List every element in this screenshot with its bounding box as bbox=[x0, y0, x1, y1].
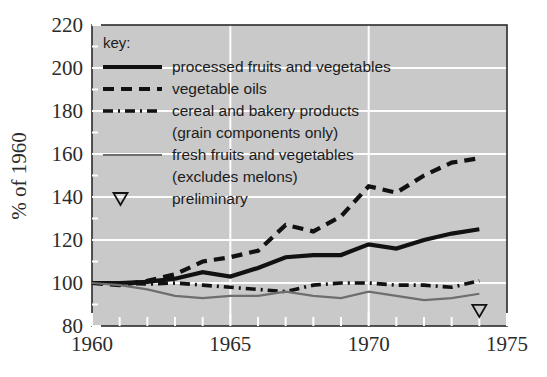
line-chart: 80100120140160180200220 1960196519701975… bbox=[0, 0, 547, 377]
legend-label-4: preliminary bbox=[172, 190, 248, 207]
x-tick-label-1975: 1975 bbox=[486, 332, 528, 356]
x-tick-label-1965: 1965 bbox=[209, 332, 251, 356]
legend-sublabel-3: (excludes melons) bbox=[172, 168, 298, 185]
legend-label-3: fresh fruits and vegetables bbox=[172, 146, 354, 163]
legend-sublabel-2: (grain components only) bbox=[172, 124, 338, 141]
legend-label-0: processed fruits and vegetables bbox=[172, 58, 391, 75]
chart-figure: 80100120140160180200220 1960196519701975… bbox=[0, 0, 547, 377]
y-tick-label-180: 180 bbox=[52, 99, 84, 123]
y-tick-label-140: 140 bbox=[52, 185, 84, 209]
x-tick-label-1960: 1960 bbox=[71, 332, 113, 356]
x-tick-label-1970: 1970 bbox=[348, 332, 390, 356]
y-tick-label-220: 220 bbox=[52, 13, 84, 37]
y-axis-tick-labels: 80100120140160180200220 bbox=[52, 13, 84, 338]
y-tick-label-100: 100 bbox=[52, 271, 84, 295]
y-tick-label-200: 200 bbox=[52, 56, 84, 80]
legend-title: key: bbox=[103, 34, 131, 51]
x-axis-tick-labels: 1960196519701975 bbox=[71, 332, 528, 356]
y-tick-label-120: 120 bbox=[52, 228, 84, 252]
y-tick-label-160: 160 bbox=[52, 142, 84, 166]
legend-label-1: vegetable oils bbox=[172, 80, 267, 97]
legend-label-2: cereal and bakery products bbox=[172, 102, 359, 119]
y-axis-title: % of 1960 bbox=[7, 132, 31, 220]
